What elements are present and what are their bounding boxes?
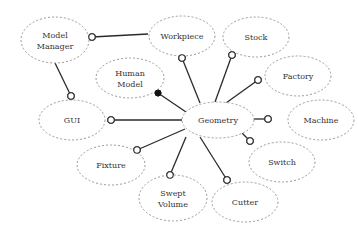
open-port-icon	[68, 93, 74, 99]
open-port-icon	[229, 52, 235, 58]
node-swept-volume[interactable]: SweptVolume	[139, 175, 207, 221]
node-cutter[interactable]: Cutter	[212, 182, 278, 222]
node-label: Manager	[37, 42, 74, 51]
node-model-manager[interactable]: ModelManager	[21, 17, 89, 63]
edge-gui-geometry	[108, 117, 182, 123]
edge-model_manager-workpiece	[89, 34, 148, 40]
open-port-icon	[247, 138, 253, 144]
open-port-icon	[255, 77, 261, 83]
node-label: Workpiece	[161, 32, 204, 41]
node-ellipse	[96, 58, 164, 98]
node-label: Factory	[283, 72, 314, 81]
connector-line	[158, 93, 186, 112]
node-label: Swept	[160, 189, 186, 198]
connector-line	[55, 63, 71, 96]
node-ellipse	[139, 175, 207, 221]
open-port-icon	[179, 55, 185, 61]
node-label: Fixture	[96, 161, 126, 170]
node-label: Human	[115, 69, 145, 78]
node-label: Model	[42, 31, 68, 40]
node-geometry[interactable]: Geometry	[182, 102, 254, 138]
node-label: GUI	[64, 116, 80, 125]
connector-line	[200, 137, 227, 180]
open-port-icon	[134, 147, 140, 153]
connector-line	[137, 129, 185, 150]
node-stock[interactable]: Stock	[223, 17, 289, 57]
node-gui[interactable]: GUI	[39, 100, 105, 140]
component-diagram: ModelManagerWorkpieceStockHumanModelFact…	[0, 0, 358, 236]
connector-line	[170, 137, 186, 175]
open-port-icon	[167, 172, 173, 178]
connector-line	[182, 58, 200, 103]
node-label: Volume	[157, 200, 188, 209]
node-ellipse	[21, 17, 89, 63]
connector-line	[92, 34, 148, 37]
open-port-icon	[89, 34, 95, 40]
open-port-icon	[108, 117, 114, 123]
node-label: Model	[117, 80, 143, 89]
edge-geometry-stock	[215, 52, 235, 102]
node-label: Stock	[245, 33, 268, 42]
node-machine[interactable]: Machine	[288, 100, 354, 140]
node-workpiece[interactable]: Workpiece	[149, 16, 215, 56]
node-label: Geometry	[198, 116, 238, 125]
node-switch[interactable]: Switch	[249, 142, 315, 182]
connector-line	[215, 55, 232, 102]
node-factory[interactable]: Factory	[265, 56, 331, 96]
node-label: Machine	[303, 116, 338, 125]
node-label: Switch	[268, 158, 296, 167]
filled-port-icon	[155, 90, 161, 96]
nodes-layer: ModelManagerWorkpieceStockHumanModelFact…	[21, 16, 354, 222]
open-port-icon	[224, 177, 230, 183]
edge-geometry-cutter	[200, 137, 230, 183]
edge-geometry-workpiece	[179, 55, 200, 103]
node-label: Cutter	[232, 198, 258, 207]
connector-line	[226, 80, 258, 103]
node-human-model[interactable]: HumanModel	[96, 58, 164, 98]
open-port-icon	[265, 116, 271, 122]
edge-geometry-fixture	[134, 129, 185, 153]
